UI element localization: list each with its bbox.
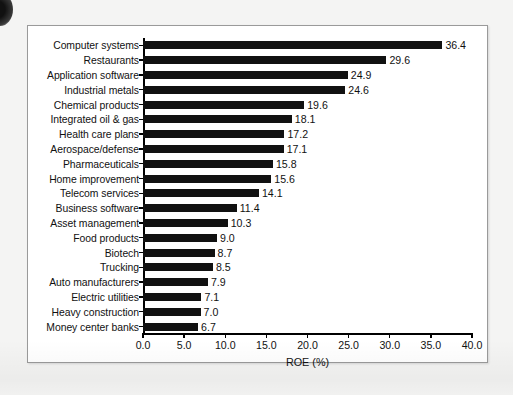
scanned-page: Computer systems36.4Restaurants29.6Appli… — [0, 0, 513, 395]
bar-value-label: 29.6 — [386, 54, 410, 66]
bar — [143, 175, 271, 183]
category-label: Chemical products — [54, 99, 139, 110]
bar-value-label: 15.6 — [271, 173, 295, 185]
x-axis-tick-label: 20.0 — [297, 339, 318, 351]
bar-row: Health care plans17.2 — [28, 127, 487, 142]
bar — [143, 249, 215, 257]
category-label: Heavy construction — [52, 306, 139, 317]
bar-row: Industrial metals24.6 — [28, 82, 487, 97]
bar — [143, 293, 201, 301]
x-axis-tick — [430, 333, 431, 338]
category-label: Money center banks — [46, 321, 139, 332]
x-axis-tick — [225, 333, 226, 338]
category-label: Computer systems — [53, 40, 139, 51]
bar-value-label: 14.1 — [259, 187, 283, 199]
bar-row: Pharmaceuticals15.8 — [28, 156, 487, 171]
category-label: Application software — [47, 69, 139, 80]
bar-row: Application software24.9 — [28, 68, 487, 83]
x-axis-tick-label: 15.0 — [256, 339, 277, 351]
bar-row: Money center banks6.7 — [28, 319, 487, 334]
category-label: Trucking — [100, 262, 139, 273]
bar — [143, 234, 217, 242]
x-axis-tick — [307, 333, 308, 338]
x-axis-tick-label: 35.0 — [421, 339, 442, 351]
bar-value-label: 9.0 — [217, 232, 235, 244]
category-label: Aerospace/defense — [50, 143, 139, 154]
category-label: Business software — [56, 203, 139, 214]
bar-row: Asset management10.3 — [28, 216, 487, 231]
bar-value-label: 7.0 — [201, 306, 219, 318]
category-label: Telecom services — [60, 188, 139, 199]
bar-row: Telecom services14.1 — [28, 186, 487, 201]
bar — [143, 308, 201, 316]
bar-value-label: 8.7 — [215, 247, 233, 259]
bar-value-label: 17.1 — [284, 143, 308, 155]
x-axis-tick — [266, 333, 267, 338]
bar — [143, 115, 292, 123]
bar — [143, 86, 345, 94]
category-label: Integrated oil & gas — [50, 114, 139, 125]
bar-row: Computer systems36.4 — [28, 38, 487, 53]
category-label: Biotech — [105, 247, 139, 258]
bar — [143, 323, 198, 331]
x-axis-tick-label: 5.0 — [177, 339, 192, 351]
category-label: Restaurants — [84, 55, 139, 66]
bar-value-label: 19.6 — [304, 99, 328, 111]
bar-row: Chemical products19.6 — [28, 97, 487, 112]
bar-value-label: 15.8 — [273, 158, 297, 170]
bar-row: Biotech8.7 — [28, 245, 487, 260]
x-axis-title: ROE (%) — [143, 356, 472, 368]
bar — [143, 101, 304, 109]
x-axis-tick-label: 40.0 — [462, 339, 483, 351]
bar-row: Auto manufacturers7.9 — [28, 275, 487, 290]
x-axis-tick — [389, 333, 390, 338]
bar-value-label: 11.4 — [237, 202, 260, 214]
bar-value-label: 24.6 — [345, 84, 369, 96]
bar-row: Trucking8.5 — [28, 260, 487, 275]
x-axis-tick — [183, 333, 184, 338]
x-axis-tick-label: 0.0 — [136, 339, 151, 351]
bar-value-label: 8.5 — [213, 261, 231, 273]
category-label: Food products — [73, 232, 139, 243]
bar — [143, 278, 208, 286]
bar-value-label: 7.9 — [208, 276, 226, 288]
bar — [143, 204, 237, 212]
category-label: Auto manufacturers — [49, 277, 139, 288]
bar-row: Aerospace/defense17.1 — [28, 142, 487, 157]
x-axis-tick — [348, 333, 349, 338]
category-label: Electric utilities — [71, 291, 139, 302]
bar-value-label: 6.7 — [198, 321, 216, 333]
bar — [143, 71, 348, 79]
bar — [143, 189, 259, 197]
bar-row: Business software11.4 — [28, 201, 487, 216]
bar-row: Home improvement15.6 — [28, 171, 487, 186]
bar-value-label: 18.1 — [292, 113, 316, 125]
bar-row: Integrated oil & gas18.1 — [28, 112, 487, 127]
x-axis-tick-label: 10.0 — [215, 339, 236, 351]
page-corner-artifact — [0, 0, 13, 26]
x-axis-tick-label: 30.0 — [379, 339, 400, 351]
bar — [143, 160, 273, 168]
bar — [143, 219, 228, 227]
category-label: Home improvement — [49, 173, 139, 184]
category-label: Asset management — [50, 217, 139, 228]
bar-value-label: 36.4 — [442, 39, 466, 51]
bar-row: Restaurants29.6 — [28, 53, 487, 68]
category-label: Health care plans — [59, 129, 139, 140]
bar — [143, 145, 284, 153]
bar — [143, 263, 213, 271]
bar-row: Food products9.0 — [28, 230, 487, 245]
x-axis-tick — [471, 333, 472, 338]
bar — [143, 130, 284, 138]
chart-figure: Computer systems36.4Restaurants29.6Appli… — [27, 25, 488, 363]
x-axis-tick — [142, 333, 143, 338]
bar-row: Heavy construction7.0 — [28, 304, 487, 319]
bar-value-label: 24.9 — [348, 69, 372, 81]
bar-row: Electric utilities7.1 — [28, 290, 487, 305]
bar-value-label: 10.3 — [228, 217, 252, 229]
bar-chart-plot-area: Computer systems36.4Restaurants29.6Appli… — [28, 26, 487, 362]
category-label: Industrial metals — [64, 84, 139, 95]
x-axis-tick-label: 25.0 — [338, 339, 359, 351]
bar — [143, 56, 386, 64]
bar — [143, 41, 442, 49]
